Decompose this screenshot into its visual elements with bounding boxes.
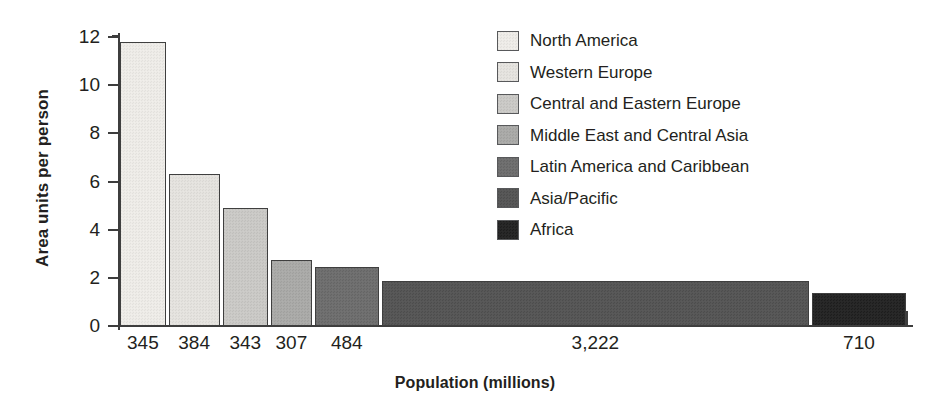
y-axis-tick (108, 229, 118, 231)
legend-item: Central and Eastern Europe (497, 88, 749, 120)
legend-item: Western Europe (497, 57, 749, 89)
y-axis-tick-label: 6 (56, 172, 100, 191)
y-axis-tick-label: 12 (56, 27, 100, 46)
x-axis-title: Population (millions) (0, 374, 950, 392)
bar-middle-east-and-central-asia (271, 260, 312, 326)
legend-label: Western Europe (530, 64, 653, 81)
legend-item: Asia/Pacific (497, 183, 749, 215)
y-axis-tick-label: 4 (56, 220, 100, 239)
legend-swatch-icon (497, 220, 519, 240)
legend-swatch-icon (497, 125, 519, 145)
legend-swatch-icon (497, 188, 519, 208)
legend-swatch-icon (497, 62, 519, 82)
y-axis-title: Area units per person (33, 53, 53, 303)
x-axis-right-cap (906, 311, 908, 327)
y-axis-tick (108, 132, 118, 134)
y-axis-tick (108, 181, 118, 183)
x-axis-category-label: 484 (287, 333, 407, 352)
y-axis-tick-label: 2 (56, 268, 100, 287)
legend-label: Asia/Pacific (530, 190, 618, 207)
bar-asia-pacific (382, 281, 809, 326)
bar-central-and-eastern-europe (223, 208, 268, 326)
legend-item: Africa (497, 214, 749, 246)
bar-africa (812, 293, 906, 326)
y-axis-tick-label: 10 (56, 75, 100, 94)
legend-label: Middle East and Central Asia (530, 127, 748, 144)
y-axis-tick-label: 8 (56, 123, 100, 142)
legend-swatch-icon (497, 157, 519, 177)
chart-figure: Area units per person 024681012 34538434… (0, 0, 950, 411)
legend-label: Africa (530, 221, 573, 238)
bar-north-america (120, 42, 166, 326)
bar-western-europe (169, 174, 220, 326)
legend-swatch-icon (497, 31, 519, 51)
legend-label: North America (530, 32, 638, 49)
y-axis-tick (108, 325, 118, 327)
x-axis-category-label: 3,222 (535, 333, 655, 352)
legend-label: Latin America and Caribbean (530, 158, 749, 175)
legend-label: Central and Eastern Europe (530, 95, 741, 112)
x-axis-category-label: 710 (799, 333, 919, 352)
chart-legend: North AmericaWestern EuropeCentral and E… (497, 25, 749, 246)
legend-item: Latin America and Caribbean (497, 151, 749, 183)
legend-swatch-icon (497, 94, 519, 114)
y-axis-tick (108, 277, 118, 279)
y-axis-tick (108, 36, 118, 38)
bar-latin-america-and-caribbean (315, 267, 379, 326)
legend-item: Middle East and Central Asia (497, 120, 749, 152)
y-axis-tick (108, 84, 118, 86)
legend-item: North America (497, 25, 749, 57)
